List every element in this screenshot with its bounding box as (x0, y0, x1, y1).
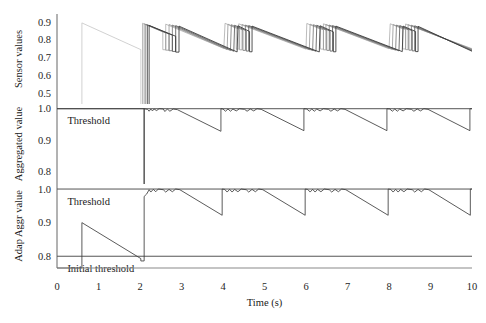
x-tick-label: 6 (303, 281, 308, 292)
y-axis-title: Sensor values (13, 30, 24, 88)
multi-panel-line-chart: 0.50.60.70.80.9Sensor values0.80.91.0Agg… (0, 0, 486, 323)
y-tick-label: 0.9 (38, 17, 51, 28)
y-tick-label: 1.0 (38, 184, 51, 195)
y-tick-label: 0.9 (38, 135, 51, 146)
y-axis-title: Adap Aggr value (13, 190, 24, 262)
x-tick-label: 2 (137, 281, 142, 292)
x-tick-label: 0 (54, 281, 59, 292)
y-tick-label: 1.0 (38, 103, 51, 114)
panel-adap-aggr-value: 0.80.91.0Adap Aggr valueThresholdInitial… (13, 184, 472, 274)
x-tick-label: 8 (386, 281, 391, 292)
x-axis-title: Time (s) (247, 297, 283, 309)
y-tick-label: 0.9 (38, 217, 51, 228)
y-tick-label: 0.5 (38, 88, 51, 99)
figure-container: 0.50.60.70.80.9Sensor values0.80.91.0Agg… (0, 0, 486, 323)
y-axis-title: Aggregated value (13, 106, 24, 181)
series-sensor-1 (82, 23, 141, 104)
threshold-label: Threshold (67, 115, 110, 126)
panel-sensor-values: 0.50.60.70.80.9Sensor values (13, 14, 472, 104)
series-sensor-2 (142, 23, 472, 104)
y-tick-label: 0.6 (38, 70, 51, 81)
threshold-label: Threshold (67, 196, 110, 207)
series-aggregated (57, 109, 472, 184)
y-tick-label: 0.8 (38, 34, 51, 45)
x-tick-label: 3 (179, 281, 184, 292)
x-axis-ticks: 012345678910 (54, 281, 477, 292)
x-tick-label: 5 (262, 281, 267, 292)
x-tick-label: 7 (345, 281, 350, 292)
x-tick-label: 1 (96, 281, 101, 292)
panel-aggregated-value: 0.80.91.0Aggregated valueThreshold (13, 103, 472, 184)
y-tick-label: 0.8 (38, 166, 51, 177)
x-tick-label: 9 (428, 281, 433, 292)
x-tick-label: 10 (467, 281, 478, 292)
y-tick-label: 0.8 (38, 251, 51, 262)
initial-threshold-label: Initial threshold (67, 263, 135, 274)
y-tick-label: 0.7 (38, 52, 51, 63)
x-tick-label: 4 (220, 281, 226, 292)
